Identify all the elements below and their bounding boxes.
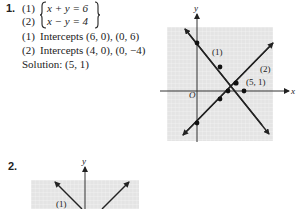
line-1-label-2: (1)	[56, 199, 67, 209]
graph-2: y (1)	[0, 0, 299, 209]
y-axis-label-2: y	[81, 156, 86, 166]
